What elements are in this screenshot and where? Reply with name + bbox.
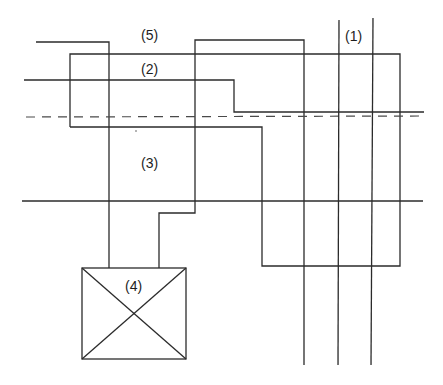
- vertical-line-1b: [371, 18, 373, 365]
- outer-rect-line: [70, 54, 400, 266]
- label-4: (4): [125, 278, 142, 294]
- path-5-left: [36, 42, 109, 268]
- diagram-canvas: (5) (2) (3) (4) (1): [0, 0, 443, 385]
- label-2: (2): [141, 61, 158, 77]
- dashed-line: [26, 116, 424, 117]
- label-1: (1): [345, 28, 362, 44]
- path-2-stepped: [24, 80, 424, 112]
- label-5: (5): [141, 27, 158, 43]
- path-5-right: [159, 40, 304, 365]
- label-3: (3): [141, 155, 158, 171]
- vertical-line-1a: [338, 20, 339, 365]
- stray-dot: [135, 130, 137, 132]
